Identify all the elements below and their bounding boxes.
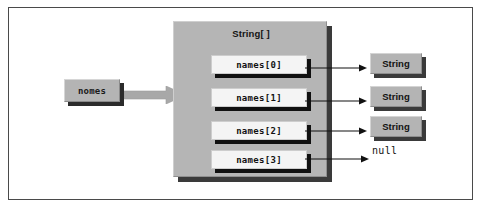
connector-arrow-3-null [305, 150, 369, 160]
string-object-0: String [370, 53, 422, 74]
array-cell-label: names[3] [236, 155, 282, 165]
connector-arrow-2 [305, 122, 367, 132]
connector-arrow-1 [305, 92, 367, 102]
string-object-2: String [370, 116, 422, 137]
string-object-label: String [382, 58, 409, 69]
array-container: String[ ] names[0] names[1] names[2] nam… [173, 21, 327, 177]
string-object-box: String [370, 86, 422, 107]
string-object-box: String [370, 116, 422, 137]
array-cell-2: names[2] [211, 121, 307, 140]
array-cell-label: names[2] [236, 126, 282, 136]
array-cell-label: names[0] [236, 60, 282, 70]
variable-box: nomes [64, 79, 120, 102]
array-type-label: String[ ] [174, 28, 328, 39]
null-value-label: null [372, 145, 397, 156]
array-cell-3: names[3] [211, 150, 307, 169]
array-cell-label: names[1] [236, 93, 282, 103]
string-object-label: String [382, 91, 409, 102]
array-cell-0: names[0] [211, 55, 307, 74]
array-cell-1: names[1] [211, 88, 307, 107]
array-cell-box: names[0] [211, 55, 307, 74]
variable-box-label: nomes [78, 86, 106, 96]
string-object-label: String [382, 121, 409, 132]
array-cell-box: names[1] [211, 88, 307, 107]
array-diagram-figure: nomes String[ ] names[0] names[1] names[… [0, 0, 482, 209]
connector-arrow-0 [305, 59, 367, 69]
array-cell-box: names[3] [211, 150, 307, 169]
string-object-1: String [370, 86, 422, 107]
array-cell-box: names[2] [211, 121, 307, 140]
string-object-box: String [370, 53, 422, 74]
